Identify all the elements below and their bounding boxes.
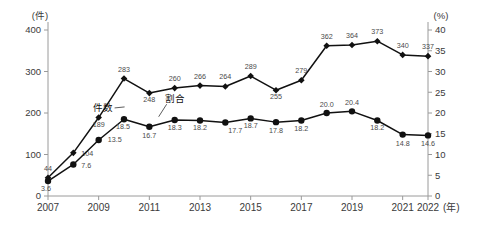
data-point-label: 18.5 (116, 122, 130, 131)
data-point-label: 362 (321, 32, 333, 41)
data-point-marker (247, 73, 254, 80)
data-point-marker (70, 161, 76, 167)
left-axis-tick-label: 300 (25, 66, 41, 77)
data-point-label: 260 (169, 74, 181, 83)
data-point-label: 17.8 (269, 126, 283, 135)
x-axis-tick-label: 2009 (88, 202, 111, 213)
x-axis-unit-label: (年) (443, 201, 460, 213)
right-axis-tick-label: 15 (435, 128, 446, 139)
chart-container: 4003002001000(件)4035302520151050(%)20072… (0, 0, 477, 228)
data-point-label: 18.7 (244, 121, 258, 130)
data-point-marker (197, 82, 204, 89)
legend-leader-ratio (159, 104, 167, 117)
data-point-label: 264 (219, 72, 231, 81)
x-axis-tick-label: 2017 (290, 202, 313, 213)
data-point-marker (171, 85, 178, 92)
data-point-label: 364 (346, 31, 358, 40)
data-point-marker (323, 110, 329, 116)
data-point-label: 44 (44, 164, 52, 173)
right-axis-tick-label: 0 (435, 190, 440, 201)
left-axis-unit-label: (件) (32, 10, 48, 21)
data-point-label: 20.4 (345, 98, 359, 107)
x-axis-tick-label: 2007 (37, 202, 60, 213)
left-axis-tick-label: 200 (25, 107, 41, 118)
right-axis-tick-label: 40 (435, 24, 446, 35)
legend-label-cases: 件数 (93, 102, 113, 113)
series-line-ratio (48, 111, 428, 181)
x-axis-tick-label: 2021 (392, 202, 415, 213)
data-point-marker (298, 117, 304, 123)
data-point-label: 248 (143, 95, 155, 104)
data-point-marker (399, 52, 406, 59)
dual-axis-line-chart: 4003002001000(件)4035302520151050(%)20072… (0, 0, 477, 228)
data-point-label: 340 (397, 41, 409, 50)
right-axis-unit-label: (%) (434, 10, 449, 21)
right-axis-tick-label: 30 (435, 66, 446, 77)
data-point-marker (399, 131, 405, 137)
x-axis-tick-label: 2011 (139, 202, 161, 213)
data-point-marker (349, 42, 356, 49)
data-point-label: 20.0 (320, 100, 334, 109)
data-point-marker (425, 53, 432, 60)
left-axis-tick-label: 100 (25, 149, 41, 160)
data-point-label: 255 (270, 92, 282, 101)
data-point-label: 3.6 (41, 184, 51, 193)
data-point-marker (222, 83, 229, 90)
right-axis-tick-label: 25 (435, 87, 446, 98)
data-point-label: 17.7 (228, 126, 242, 135)
data-point-label: 16.7 (142, 131, 156, 140)
data-point-label: 7.6 (81, 161, 91, 170)
data-point-marker (374, 38, 381, 45)
right-axis-tick-label: 5 (435, 170, 440, 181)
data-point-label: 189 (93, 120, 105, 129)
right-axis-tick-label: 10 (435, 149, 446, 160)
data-point-label: 283 (118, 65, 130, 74)
data-point-label: 18.2 (370, 123, 384, 132)
left-axis-tick-label: 400 (25, 24, 41, 35)
data-point-marker (95, 137, 101, 143)
data-point-label: 18.2 (193, 123, 207, 132)
data-point-label: 337 (422, 42, 434, 51)
data-point-label: 13.5 (108, 135, 122, 144)
data-point-label: 18.3 (168, 123, 182, 132)
legend-label-ratio: 割合 (165, 93, 185, 104)
x-axis-tick-label: 2019 (341, 202, 364, 213)
x-axis-tick-label: 2013 (189, 202, 212, 213)
data-point-label: 373 (371, 27, 383, 36)
data-point-label: 289 (245, 62, 257, 71)
x-axis-tick-label: 2015 (240, 202, 263, 213)
x-axis-tick-label: 2022 (417, 202, 440, 213)
data-point-marker (273, 119, 279, 125)
data-point-label: 14.8 (396, 139, 410, 148)
data-point-marker (349, 108, 355, 114)
data-point-label: 14.6 (421, 139, 435, 148)
data-point-marker (425, 132, 431, 138)
data-point-label: 18.2 (294, 124, 308, 133)
data-point-label: 266 (194, 72, 206, 81)
data-point-label: 279 (295, 66, 307, 75)
data-point-marker (146, 123, 152, 129)
right-axis-tick-label: 20 (435, 107, 446, 118)
legend-leader-cases (115, 107, 125, 108)
right-axis-tick-label: 35 (435, 45, 446, 56)
